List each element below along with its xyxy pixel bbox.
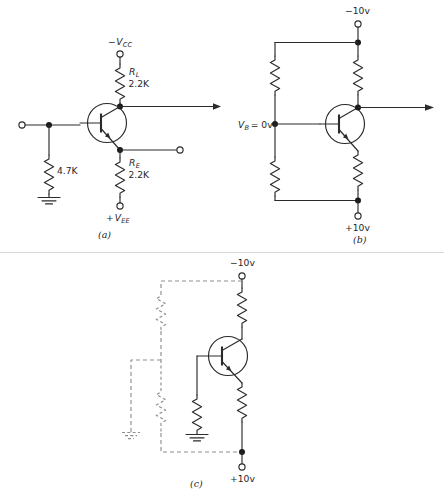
panel-c-base-resistor-symbol <box>192 395 201 434</box>
panel-a-vee-label: +VEE <box>106 212 130 225</box>
panel-a-input-terminal[interactable] <box>19 122 25 128</box>
panel-c-emitter-resistor-symbol <box>237 383 246 422</box>
panel-a-transistor-collector-lead <box>101 107 120 118</box>
panel-a-collector-resistor-symbol <box>115 64 124 103</box>
panel-b-supply-bottom-label: +10v <box>345 222 370 233</box>
panel-a-vcc-terminal[interactable] <box>117 51 123 57</box>
panel-a-base-resistor-symbol <box>44 155 53 194</box>
panel-a: −VCC RL 2.2K <box>19 36 221 240</box>
panel-b-base-label: VB= 0v <box>238 119 273 132</box>
panel-c-dashed-ground-symbol <box>122 433 140 439</box>
panel-c-supply-top-label: −10v <box>230 257 255 268</box>
panel-c-dashed-upper-divider-resistor <box>156 292 165 331</box>
panel-a-base-resistor-value: 4.7K <box>57 165 79 176</box>
circuit-figure-svg: −VCC RL 2.2K <box>0 0 444 494</box>
panel-b-upper-divider-resistor <box>270 56 279 95</box>
panel-c-caption: (c) <box>190 478 203 489</box>
panel-c: −10v <box>122 257 255 489</box>
panel-b: −10v VB= 0v <box>238 5 434 245</box>
panel-b-caption: (b) <box>353 234 367 245</box>
panel-c-transistor-collector-lead <box>222 339 242 351</box>
panel-a-rl-value: 2.2K <box>129 78 151 89</box>
panel-b-supply-bottom-terminal[interactable] <box>355 213 361 219</box>
panel-b-supply-top-terminal[interactable] <box>355 21 361 27</box>
panel-a-vee-subscript: EE <box>121 217 130 225</box>
panel-b-transistor-collector-lead <box>339 108 358 119</box>
panel-b-emitter-resistor-symbol <box>353 151 362 190</box>
panel-a-vcc-label: −VCC <box>108 36 132 49</box>
panel-a-vee-terminal[interactable] <box>117 203 123 209</box>
panel-a-caption: (a) <box>98 229 111 240</box>
panel-a-re-value: 2.2K <box>129 169 151 180</box>
panel-b-collector-resistor-symbol <box>353 56 362 95</box>
panel-a-vee-sign: + <box>106 212 114 223</box>
panel-a-output-terminal[interactable] <box>177 147 183 153</box>
panel-a-vcc-subscript: CC <box>123 41 133 49</box>
panel-c-dashed-bottom-rail <box>161 433 242 452</box>
panel-a-ground-symbol <box>38 198 60 204</box>
panel-c-dashed-base-tap-wire <box>131 360 161 432</box>
panel-b-base-subscript: B <box>245 124 250 132</box>
figure-root: −VCC RL 2.2K <box>0 0 444 494</box>
panel-b-base-value: = 0v <box>251 119 273 130</box>
panel-c-supply-top-terminal[interactable] <box>239 273 245 279</box>
panel-b-collector-output-arrowhead <box>425 104 434 110</box>
panel-b-lower-divider-resistor <box>270 157 279 196</box>
panel-a-vcc-sign: − <box>108 36 116 47</box>
panel-c-supply-bottom-terminal[interactable] <box>239 464 245 470</box>
panel-a-re-name: R <box>129 157 135 168</box>
panel-a-emitter-resistor-symbol <box>115 158 124 197</box>
panel-c-ground-symbol <box>186 435 208 441</box>
panel-c-collector-resistor-symbol <box>237 288 246 327</box>
panel-a-rl-name: R <box>129 66 135 77</box>
panel-b-supply-top-label: −10v <box>345 5 370 16</box>
panel-c-dashed-lower-divider-resistor <box>156 360 165 433</box>
panel-c-dashed-top-rail <box>161 281 242 292</box>
panel-c-supply-bottom-label: +10v <box>230 473 255 484</box>
panel-a-collector-output-arrowhead <box>213 103 221 109</box>
